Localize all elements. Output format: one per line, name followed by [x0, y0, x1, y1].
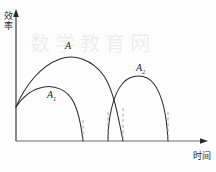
- curve-label-A2-sub: 2: [142, 68, 145, 75]
- curve-label-A: A: [65, 40, 71, 51]
- curve-label-A-text: A: [65, 40, 71, 51]
- curve-label-A2: A2: [136, 62, 145, 75]
- curve-label-A1: A1: [47, 89, 56, 102]
- efficiency-vs-time-figure: 数学教育网 效 率 时间 A A1 A2: [0, 0, 216, 172]
- curve-label-A1-sub: 1: [53, 95, 56, 102]
- curve-A: [16, 57, 123, 141]
- x-axis-label: 时间: [193, 152, 211, 162]
- curve-A2: [108, 76, 168, 141]
- figure-canvas: [0, 0, 216, 172]
- y-axis-label: 效 率: [3, 12, 14, 31]
- x-axis-arrow-icon: [200, 138, 208, 144]
